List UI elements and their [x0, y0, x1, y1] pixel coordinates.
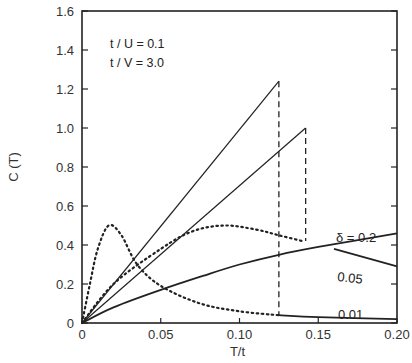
x-tick-label: 0.15	[306, 327, 331, 342]
y-axis-label: C (T)	[6, 152, 21, 182]
curve-dotted-segment	[82, 225, 303, 323]
y-tick-label: 0	[67, 316, 74, 331]
parameter-annotation: t / V = 3.0	[110, 56, 164, 70]
x-tick-label: 0	[78, 327, 85, 342]
linear-curve	[82, 128, 306, 323]
y-tick-label: 1.4	[56, 43, 74, 58]
curve-solid-segment	[334, 249, 397, 267]
curve-label: δ = 0.2	[336, 230, 376, 245]
x-tick-label: 0.05	[148, 327, 173, 342]
chart: 00.20.40.60.81.01.21.41.600.050.100.150.…	[0, 0, 412, 363]
y-tick-label: 1.2	[56, 82, 74, 97]
y-tick-label: 1.0	[56, 121, 74, 136]
curve-label: 0.05	[337, 269, 364, 287]
curves	[82, 81, 397, 323]
x-axis-label: T/t	[230, 344, 246, 359]
parameter-annotation: t / U = 0.1	[110, 37, 165, 51]
y-tick-label: 0.8	[56, 160, 74, 175]
y-tick-label: 0.4	[56, 238, 74, 253]
curve-label: 0.01	[338, 307, 363, 322]
x-tick-label: 0.10	[227, 327, 252, 342]
y-tick-label: 0.2	[56, 277, 74, 292]
linear-curve	[82, 81, 279, 323]
x-tick-label: 0.20	[384, 327, 409, 342]
y-tick-label: 1.6	[56, 4, 74, 19]
y-tick-label: 0.6	[56, 199, 74, 214]
